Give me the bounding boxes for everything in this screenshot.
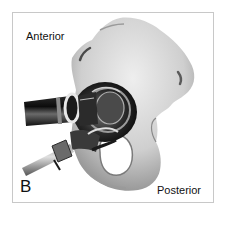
anterior-label: Anterior [26,31,65,42]
posterior-label: Posterior [157,185,201,196]
panel-letter-label: B [20,178,31,195]
